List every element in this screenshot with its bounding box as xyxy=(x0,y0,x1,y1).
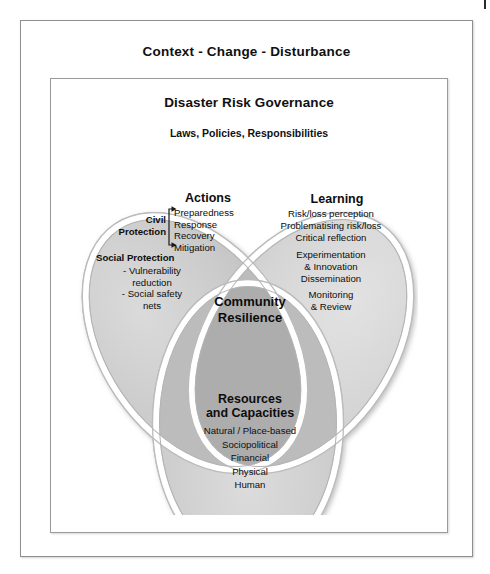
list-item: Experimentation xyxy=(268,249,394,261)
list-item: Financial xyxy=(182,451,318,465)
civil-protection-line1: Civil xyxy=(104,214,166,226)
list-item: Natural / Place-based xyxy=(182,424,318,438)
civil-protection-items: Preparedness Response Recovery Mitigatio… xyxy=(174,207,256,253)
list-item: nets xyxy=(100,300,204,312)
list-item: & Innovation xyxy=(268,261,394,273)
list-item: Risk/loss perception xyxy=(268,208,394,220)
list-item: - Social safety xyxy=(100,288,204,300)
actions-heading: Actions xyxy=(163,191,253,205)
community-resilience-line1: Community xyxy=(192,294,308,310)
community-resilience-line2: Resilience xyxy=(192,310,308,326)
list-item: Physical xyxy=(182,465,318,479)
list-item: Human xyxy=(182,478,318,492)
resources-heading-line2: and Capacities xyxy=(190,406,310,420)
list-item: Recovery xyxy=(174,230,256,242)
list-item: Sociopolitical xyxy=(182,438,318,452)
list-item: Response xyxy=(174,219,256,231)
context-title: Context - Change - Disturbance xyxy=(20,44,473,59)
list-item: Critical reflection xyxy=(268,232,394,244)
learning-heading: Learning xyxy=(295,192,379,206)
community-resilience-label: Community Resilience xyxy=(192,294,308,326)
list-item: - Vulnerability xyxy=(100,265,204,277)
social-protection-heading: Social Protection xyxy=(96,252,196,263)
resources-items: Natural / Place-based Sociopolitical Fin… xyxy=(182,424,318,492)
list-item: Preparedness xyxy=(174,207,256,219)
list-item: reduction xyxy=(100,277,204,289)
resources-heading-line1: Resources xyxy=(190,392,310,406)
list-item: Dissemination xyxy=(268,273,394,285)
corner-artifact-mark xyxy=(484,0,486,9)
list-item: Problematising risk/loss xyxy=(268,220,394,232)
civil-protection-line2: Protection xyxy=(104,226,166,238)
civil-protection-label: Civil Protection xyxy=(104,214,166,237)
governance-subtitle: Laws, Policies, Responsibilities xyxy=(50,127,448,139)
figure-canvas: Context - Change - Disturbance Disaster … xyxy=(0,0,490,574)
social-protection-items: - Vulnerability reduction - Social safet… xyxy=(100,265,204,311)
governance-title: Disaster Risk Governance xyxy=(50,95,448,110)
resources-heading: Resources and Capacities xyxy=(190,392,310,420)
